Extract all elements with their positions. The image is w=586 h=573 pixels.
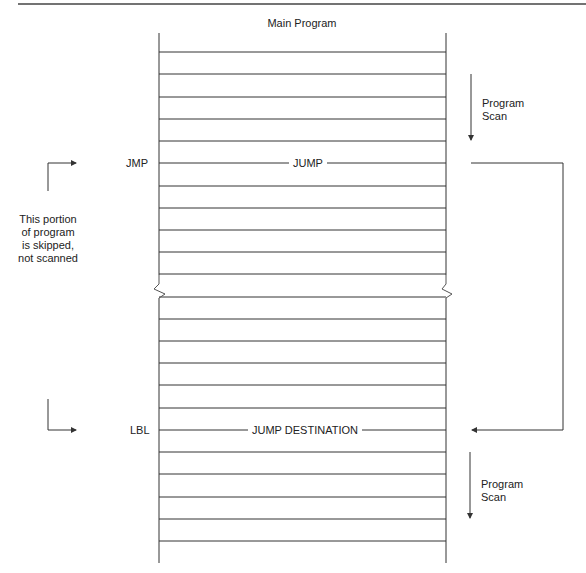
scan-bottom-label: Program Scan bbox=[481, 478, 523, 504]
break-zigzag-right bbox=[442, 275, 452, 298]
lbl-instruction-label: LBL bbox=[130, 424, 150, 437]
skip-bracket-bottom-arrow bbox=[48, 399, 76, 430]
label-rung-label: JUMP DESTINATION bbox=[248, 424, 362, 437]
skipped-note: This portion of program is skipped, not … bbox=[12, 213, 84, 265]
skip-bracket-top-arrow bbox=[48, 163, 76, 191]
jump-bracket-arrow bbox=[471, 163, 563, 430]
jump-rung-label: JUMP bbox=[289, 157, 327, 170]
scan-top-label: Program Scan bbox=[482, 97, 524, 123]
diagram-title: Main Program bbox=[252, 17, 352, 30]
ladder-rungs bbox=[159, 52, 446, 541]
jmp-instruction-label: JMP bbox=[126, 157, 148, 170]
ladder-rails bbox=[159, 33, 446, 563]
break-zigzag-left bbox=[154, 275, 165, 298]
